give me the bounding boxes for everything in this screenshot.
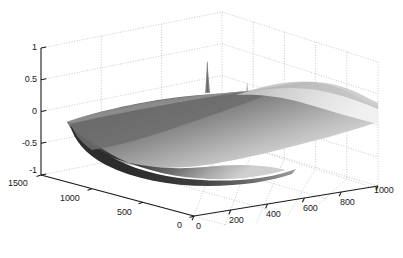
x-tick-label-1000: 1000 [374,186,394,195]
z-tick-label-neg0p5: -0.5 [10,139,37,148]
z-tick-label-neg1: -1 [14,166,37,175]
z-tick-label-0: 0 [18,107,37,116]
surface-plot-axes [0,0,403,258]
figure-canvas: 1 0.5 0 -0.5 -1 1500 1000 500 0 0 200 40… [0,0,403,258]
x-tick-label-200: 200 [229,216,244,225]
x-tick-label-400: 400 [266,210,281,219]
z-tick-label-0p5: 0.5 [14,75,37,84]
z-tick-label-1: 1 [18,43,37,52]
z-axis-ticks [41,47,46,175]
y-tick-label-1000: 1000 [60,194,80,203]
x-tick-label-0: 0 [196,222,201,231]
surface-spike [205,60,210,93]
x-tick-label-600: 600 [303,204,318,213]
y-tick-label-0: 0 [177,221,182,230]
y-tick-label-1500: 1500 [8,179,28,188]
y-tick-label-500: 500 [117,208,132,217]
x-tick-label-800: 800 [340,198,355,207]
